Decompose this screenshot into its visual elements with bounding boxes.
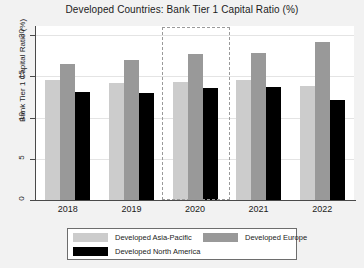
bar [124,60,139,200]
bar [300,86,315,200]
y-tick-label-wrap: 5 [12,153,28,165]
bar [139,93,154,200]
chart-legend: Developed Asia-Pacific Developed Europe … [67,228,297,260]
y-tick-label-wrap: 10 [12,112,28,124]
y-tick-mark [30,200,36,201]
legend-swatch-north-america [73,247,108,256]
chart-title: Developed Countries: Bank Tier 1 Capital… [0,4,364,15]
y-tick-mark [30,118,36,119]
bar [330,100,345,200]
bar [251,53,266,200]
legend-item-developed-europe[interactable]: Developed Europe [203,233,307,242]
y-tick-label: 0 [17,192,26,206]
y-tick-mark [30,76,36,77]
legend-item-developed-north-america[interactable]: Developed North America [73,247,200,256]
chart-figure: Developed Countries: Bank Tier 1 Capital… [0,0,364,268]
y-tick-label: 15 [17,68,26,82]
legend-label-north-america: Developed North America [115,247,200,256]
legend-swatch-asia-pacific [73,233,108,242]
y-tick-label: 20 [17,27,26,41]
bar [45,80,60,200]
y-tick-label: 5 [17,150,26,164]
y-tick-mark [30,35,36,36]
x-tick-label: 2022 [292,204,352,214]
y-axis-line [35,26,36,201]
y-tick-label-wrap: 20 [12,29,28,41]
legend-swatch-europe [203,233,238,242]
gridline [36,35,354,36]
x-tick-label: 2020 [165,204,225,214]
y-tick-mark [30,159,36,160]
bar [266,87,281,200]
bar [236,80,251,200]
bar [60,64,75,200]
x-tick-label: 2018 [38,204,98,214]
bar [75,92,90,200]
bar [173,82,188,200]
legend-item-developed-asia-pacific[interactable]: Developed Asia-Pacific [73,233,192,242]
x-tick-label: 2021 [229,204,289,214]
bar [315,42,330,200]
bar [109,83,124,200]
y-tick-label-wrap: 0 [12,194,28,206]
y-tick-label: 10 [17,109,26,123]
x-axis-line [35,200,356,201]
y-tick-label-wrap: 15 [12,70,28,82]
bar [188,54,203,200]
legend-label-asia-pacific: Developed Asia-Pacific [115,233,192,242]
legend-label-europe: Developed Europe [245,233,307,242]
x-tick-label: 2019 [101,204,161,214]
bar [203,88,218,200]
